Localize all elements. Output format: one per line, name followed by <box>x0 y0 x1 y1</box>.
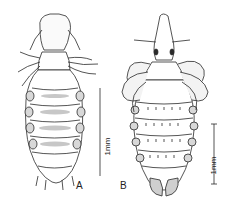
panel-label-a: A <box>76 180 83 191</box>
scale-label-a: 1mm <box>103 138 112 156</box>
panel-label-b: B <box>120 180 127 191</box>
scale-label-b: 1mm <box>209 157 218 175</box>
specimen-b <box>122 14 208 196</box>
specimen-a <box>18 14 98 190</box>
scale-bar-b <box>211 124 217 184</box>
scientific-illustration <box>0 0 234 218</box>
